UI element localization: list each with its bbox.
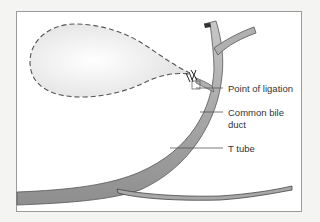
gallbladder-outline bbox=[30, 24, 188, 97]
label-common-bile-duct-line2: duct bbox=[228, 119, 246, 130]
label-point-of-ligation: Point of ligation bbox=[228, 83, 293, 94]
label-t-tube: T tube bbox=[228, 143, 255, 154]
label-common-bile-duct-line1: Common bile bbox=[228, 107, 284, 118]
cystic-duct-stump bbox=[196, 78, 214, 92]
